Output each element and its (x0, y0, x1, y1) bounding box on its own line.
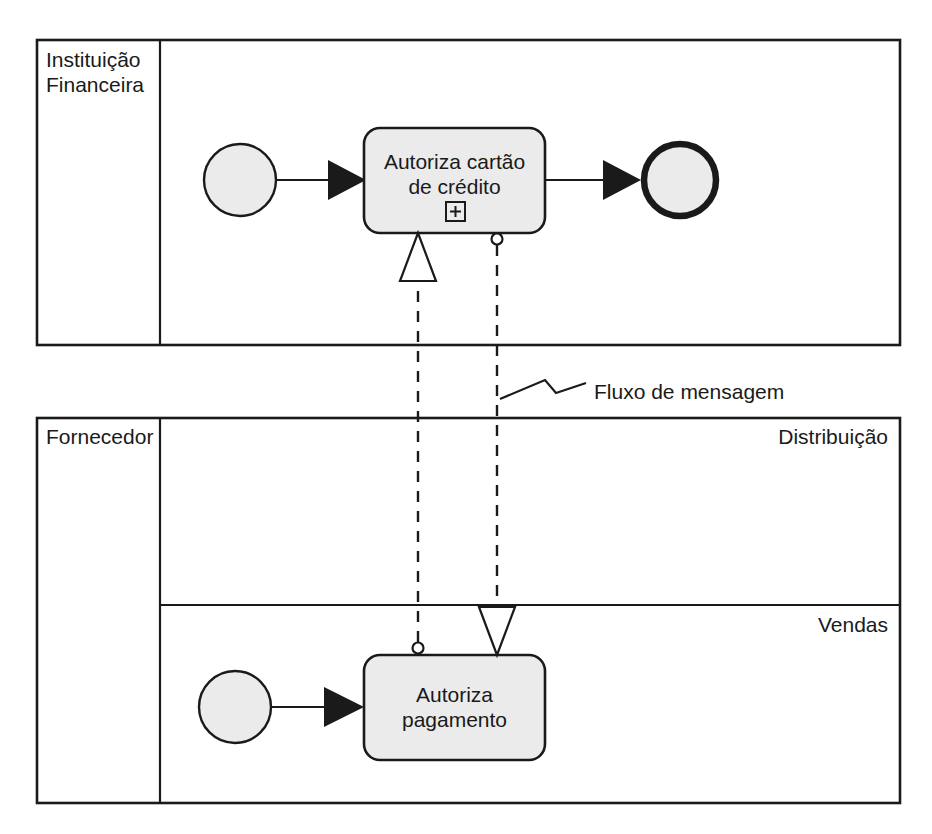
task-autoriza-pagamento-label-line1: Autoriza (416, 683, 493, 706)
bpmn-diagram-canvas: .ln { stroke: #1a1a1a; fill: none; } .po… (0, 0, 932, 834)
pool-label-instituicao-financeira-line2: Financeira (46, 73, 144, 96)
msg-flow-2-source-marker (492, 234, 503, 245)
task-autoriza-cartao-label-wrap: Autoriza cartãode crédito (364, 137, 545, 212)
task-autoriza-cartao-label-line2: de crédito (408, 175, 500, 198)
task-autoriza-pagamento-label: Autorizapagamento (364, 683, 545, 733)
task-autoriza-cartao-label: Autoriza cartãode crédito (364, 150, 545, 200)
lane-label-distribuicao: Distribuição (600, 425, 888, 450)
lane-label-vendas: Vendas (600, 613, 888, 638)
start-event-1[interactable] (204, 144, 276, 216)
annotation-label-message-flow: Fluxo de mensagem (594, 380, 784, 405)
pool-label-instituicao-financeira: InstituiçãoFinanceira (46, 48, 156, 98)
pool-label-instituicao-financeira-line1: Instituição (46, 48, 141, 71)
pool-label-fornecedor: Fornecedor (46, 425, 158, 450)
task-autoriza-cartao-label-line1: Autoriza cartão (384, 150, 525, 173)
annotation-leader-line (500, 380, 586, 399)
task-autoriza-pagamento-label-wrap: Autorizapagamento (364, 670, 545, 745)
task-autoriza-pagamento-label-line2: pagamento (402, 708, 507, 731)
msg-flow-1-source-marker (413, 643, 424, 654)
start-event-2[interactable] (199, 671, 271, 743)
end-event-1[interactable] (644, 144, 716, 216)
